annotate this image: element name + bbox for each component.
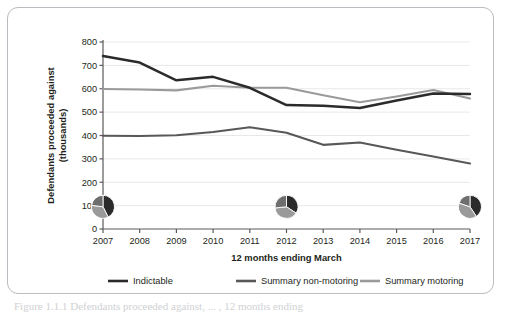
chart-panel: 0100200300400500600700800200720082009201… [7, 7, 494, 294]
pie-insets [91, 195, 481, 218]
x-axis-tick-label: 2008 [129, 236, 149, 246]
line-chart: 0100200300400500600700800200720082009201… [8, 8, 495, 295]
pie-inset-2007 [91, 195, 114, 218]
legend-item-summary-non-motoring[interactable]: Summary non-motoring [236, 276, 358, 286]
series-line-indictable [103, 56, 470, 108]
x-axis-tick-label: 2011 [240, 236, 260, 246]
x-axis-tick-label: 2013 [313, 236, 333, 246]
y-axis-tick-label: 600 [82, 84, 97, 94]
y-axis-tick-label: 500 [82, 107, 97, 117]
legend-label: Summary non-motoring [261, 276, 358, 286]
x-axis-tick-label: 2016 [423, 236, 443, 246]
y-axis-tick-label: 300 [82, 154, 97, 164]
y-axis-title-line1: Defendants proceeded against [45, 67, 56, 204]
legend-label: Summary motoring [385, 276, 464, 286]
pie-slice [92, 195, 103, 207]
x-axis-tick-label: 2015 [386, 236, 406, 246]
figure-caption: Figure 1.1.1 Defendants proceeded agains… [14, 300, 494, 312]
x-axis-tick-label: 2012 [276, 236, 296, 246]
pie-inset-2017 [458, 195, 481, 218]
series-lines [103, 56, 470, 164]
y-axis-tick-label: 0 [92, 224, 97, 234]
x-axis-tick-label: 2009 [166, 236, 186, 246]
y-axis-title: Defendants proceeded against(thousands) [45, 67, 68, 204]
legend-item-indictable[interactable]: Indictable [108, 276, 173, 286]
y-axis-title-line2: (thousands) [57, 109, 68, 163]
x-axis-tick-label: 2007 [93, 236, 113, 246]
legend-label: Indictable [133, 276, 173, 286]
x-axis: 2007200820092010201120122013201420152016… [93, 229, 480, 246]
x-axis-tick-label: 2014 [350, 236, 370, 246]
legend-item-summary-motoring[interactable]: Summary motoring [360, 276, 464, 286]
gridlines [103, 42, 470, 206]
pie-inset-2012 [275, 195, 298, 218]
legend: IndictableSummary non-motoringSummary mo… [108, 276, 464, 286]
x-axis-tick-label: 2017 [460, 236, 480, 246]
y-axis-tick-label: 200 [82, 178, 97, 188]
series-line-summary-motoring [103, 86, 470, 103]
x-axis-tick-label: 2010 [203, 236, 223, 246]
x-axis-title: 12 months ending March [231, 252, 342, 263]
pie-slice [275, 195, 287, 208]
y-axis-tick-label: 800 [82, 37, 97, 47]
y-axis-tick-label: 700 [82, 61, 97, 71]
series-line-summary-non-motoring [103, 127, 470, 163]
y-axis-tick-label: 400 [82, 131, 97, 141]
figure-root: 0100200300400500600700800200720082009201… [0, 0, 509, 313]
